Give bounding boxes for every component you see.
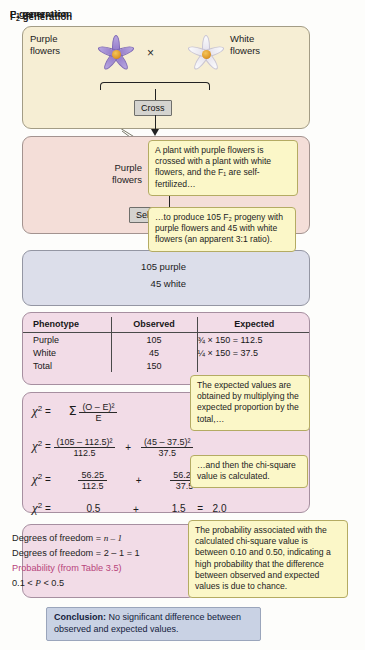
- p-purple-label-line1: Purple: [30, 33, 57, 44]
- fraction-o-minus-e: (O – E)² E: [79, 402, 117, 424]
- table-header-row: Phenotype Observed Expected: [23, 317, 310, 333]
- fraction-term-2: (45 – 37.5)² 37.5: [141, 437, 194, 459]
- callout-chi-square-calculated: …and then the chi-square value is calcul…: [190, 455, 308, 488]
- p-purple-label-line2: flowers: [30, 45, 60, 56]
- plus-operator: +: [103, 504, 169, 515]
- chi-exponent: 2: [38, 501, 42, 510]
- fraction-numerator: (45 – 37.5)²: [141, 437, 194, 447]
- white-flower-icon: [184, 32, 228, 76]
- degrees-of-freedom-line-2: Degrees of freedom = 2 – 1 = 1: [12, 548, 140, 558]
- chi-square-formula-line-2: χ2 = (105 – 112.5)² 112.5 + (45 – 37.5)²…: [32, 437, 193, 459]
- equals-sign: =: [45, 503, 51, 514]
- chi-square-formula-line-3: χ2 = 56.25 112.5 + 56.25 37.5: [32, 470, 199, 492]
- sigma-symbol: Σ: [68, 403, 76, 418]
- p-purple-flower-label: Purple flowers: [30, 33, 60, 57]
- table-row: Purple 105 ¾ × 150 = 112.5: [23, 333, 310, 347]
- probability-range: 0.1 < P < 0.5: [12, 578, 64, 588]
- equals-sign-final: =: [197, 503, 203, 514]
- cross-to-f1-arrowhead: [151, 129, 159, 136]
- df-line1-value: n – 1: [104, 533, 122, 543]
- chi-square-formula-line-1: χ2 = Σ (O – E)² E: [32, 402, 117, 424]
- probability-lower: 0.1 <: [12, 578, 35, 588]
- cell-observed: 45: [111, 346, 197, 359]
- column-header-expected: Expected: [197, 317, 310, 333]
- callout-f2-progeny-explanation: …to produce 105 F₂ progeny with purple f…: [148, 207, 296, 252]
- df-line1-label: Degrees of freedom =: [12, 533, 104, 543]
- fraction-numerator: 56.25: [78, 470, 107, 480]
- chi-exponent: 2: [38, 439, 42, 448]
- probability-table-reference: Probability (from Table 3.5): [12, 563, 122, 573]
- cell-observed: 105: [111, 333, 197, 347]
- fraction-numerator: (105 – 112.5)²: [54, 437, 116, 447]
- f1-purple-flower-label: Purple flowers: [84, 162, 142, 186]
- conclusion-label: Conclusion:: [54, 612, 106, 622]
- phenotype-data-table: Phenotype Observed Expected Purple 105 ¾…: [23, 317, 310, 372]
- f2-generation-title: F2 generation: [10, 11, 72, 22]
- fraction-denominator: 112.5: [78, 480, 107, 491]
- cell-phenotype: Purple: [23, 333, 111, 347]
- f1-purple-label-line1: Purple: [115, 162, 142, 173]
- chi-exponent: 2: [38, 404, 42, 413]
- equals-sign: =: [45, 406, 51, 417]
- f2-title-rest: generation: [20, 11, 72, 22]
- plus-operator: +: [110, 475, 168, 486]
- fraction-denominator: E: [79, 412, 117, 423]
- chi-term-1-value: 0.5: [86, 503, 100, 514]
- degrees-of-freedom-line-1: Degrees of freedom = n – 1: [12, 533, 122, 543]
- cross-multiplication-symbol: ×: [147, 46, 154, 60]
- cell-observed: 150: [111, 359, 197, 372]
- cell-expected: [197, 359, 310, 372]
- purple-flower-icon: [94, 32, 138, 76]
- fraction-denominator: 37.5: [141, 447, 194, 458]
- cell-phenotype: Total: [23, 359, 111, 372]
- cell-expected: ¼ × 150 = 37.5: [197, 346, 310, 359]
- column-header-phenotype: Phenotype: [23, 317, 111, 333]
- probability-upper: < 0.5: [41, 578, 64, 588]
- plus-operator: +: [118, 442, 138, 453]
- f2-white-count: 45 white: [100, 278, 186, 289]
- cell-expected: ¾ × 150 = 112.5: [197, 333, 310, 347]
- callout-probability-interpretation: The probability associated with the calc…: [188, 520, 348, 598]
- fraction-term-1: 56.25 112.5: [78, 470, 107, 492]
- cross-label-box: Cross: [134, 100, 172, 116]
- f1-purple-label-line2: flowers: [112, 174, 142, 185]
- chi-square-figure: P generation Purple flowers × White flow…: [0, 0, 365, 650]
- chi-square-formula-line-4: χ2 = 0.5 + 1.5 = 2.0: [32, 500, 226, 516]
- callout-expected-values-explanation: The expected values are obtained by mult…: [190, 375, 310, 431]
- chi-exponent: 2: [38, 472, 42, 481]
- fraction-numerator: (O – E)²: [79, 402, 117, 412]
- equals-sign: =: [45, 441, 51, 452]
- callout-cross-explanation: A plant with purple flowers is crossed w…: [148, 140, 298, 196]
- conclusion-box: Conclusion: No significant difference be…: [46, 607, 261, 641]
- fraction-denominator: 112.5: [54, 447, 116, 458]
- fraction-term-1: (105 – 112.5)² 112.5: [54, 437, 116, 459]
- table-row: White 45 ¼ × 150 = 37.5: [23, 346, 310, 359]
- equals-sign: =: [45, 474, 51, 485]
- p-white-label-line1: White: [230, 33, 254, 44]
- f2-purple-count: 105 purple: [100, 261, 186, 272]
- chi-square-result: 2.0: [213, 503, 227, 514]
- p-white-flower-label: White flowers: [230, 33, 260, 57]
- cell-phenotype: White: [23, 346, 111, 359]
- p-white-label-line2: flowers: [230, 45, 260, 56]
- chi-term-2-value: 1.5: [172, 503, 186, 514]
- table-row: Total 150: [23, 359, 310, 372]
- column-header-observed: Observed: [111, 317, 197, 333]
